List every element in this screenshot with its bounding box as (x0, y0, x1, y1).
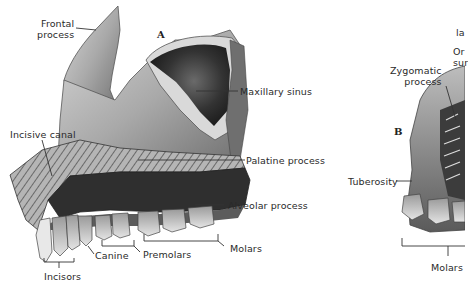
label-maxillary-sinus: Maxillary sinus (240, 86, 312, 97)
label-zygomatic-line2: process (390, 76, 442, 87)
label-alveolar-process: Alveolar process (228, 200, 308, 211)
label-zygomatic-process: Zygomatic process (390, 65, 442, 87)
label-orbital-surface-truncated: Or sur (453, 46, 468, 68)
label-zygomatic-line1: Zygomatic (390, 65, 442, 76)
label-premolars: Premolars (143, 249, 191, 260)
label-orbital-line1: Or (453, 46, 468, 57)
label-molars-b: Molars (431, 262, 463, 273)
label-incisors: Incisors (44, 271, 81, 282)
label-frontal-process-line2: process (37, 29, 74, 40)
panel-a-letter: A (157, 29, 165, 40)
label-lacrimal-truncated: la (456, 27, 465, 38)
label-frontal-process-line1: Frontal (37, 18, 74, 29)
label-canine: Canine (95, 250, 129, 261)
label-palatine-process: Palatine process (246, 155, 325, 166)
label-orbital-line2: sur (453, 57, 468, 68)
label-incisive-canal: Incisive canal (10, 129, 76, 140)
panel-b-letter: B (394, 126, 402, 137)
label-molars-a: Molars (230, 243, 262, 254)
label-tuberosity: Tuberosity (348, 176, 398, 187)
label-frontal-process: Frontal process (37, 18, 74, 40)
panel-b-bone (402, 66, 465, 232)
